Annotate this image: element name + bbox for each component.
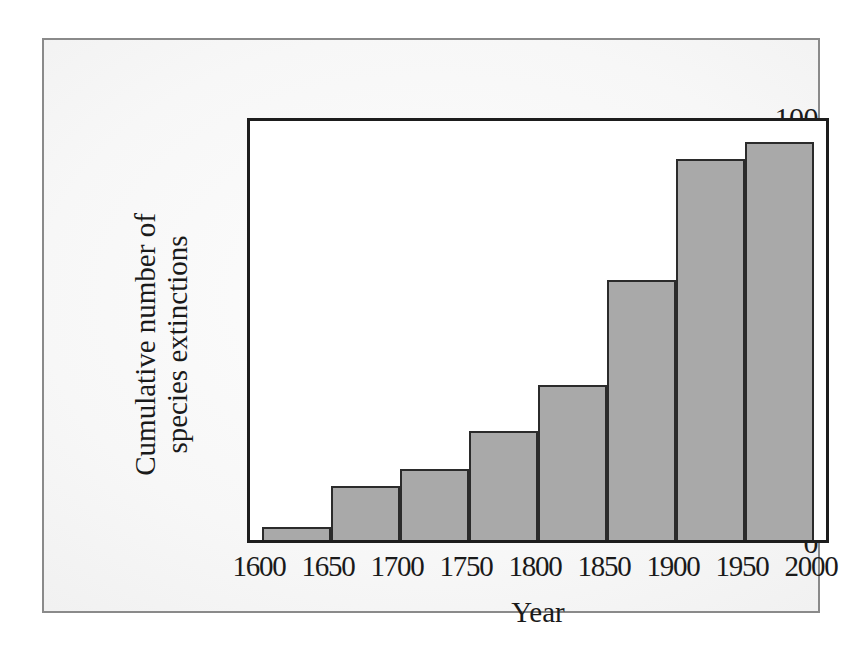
figure-page: Cumulative number of species extinctions… [0, 0, 863, 652]
bar-1700-1750[interactable] [400, 469, 469, 540]
bar-1750-1800[interactable] [469, 431, 538, 540]
y-axis-title-line-2: species extinctions [161, 134, 193, 554]
bar-1800-1850[interactable] [538, 385, 607, 540]
y-axis-title-line-1: Cumulative number of [129, 134, 161, 554]
x-tick-label-2000: 2000 [766, 552, 856, 581]
bars-layer [250, 121, 826, 540]
bar-1950-2000[interactable] [745, 142, 814, 540]
bar-1650-1700[interactable] [331, 486, 400, 540]
x-axis-title: Year [247, 596, 829, 629]
figure-outer-border: Cumulative number of species extinctions… [42, 38, 820, 613]
bar-1900-1950[interactable] [676, 159, 745, 540]
bar-1600-1650[interactable] [262, 527, 331, 540]
y-axis-title: Cumulative number of species extinctions [129, 134, 194, 554]
plot-area [247, 118, 829, 543]
bar-1850-1900[interactable] [607, 280, 676, 540]
